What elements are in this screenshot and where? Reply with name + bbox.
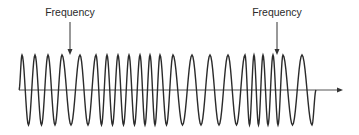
frequency-label-high: Frequency (252, 6, 302, 18)
frequency-label-low: Frequency (45, 6, 95, 18)
label-arrows (68, 22, 280, 55)
fm-wave-diagram (0, 0, 359, 135)
arrow-down-icon (68, 49, 73, 55)
axis-arrowhead-icon (337, 88, 343, 93)
arrow-down-icon (275, 49, 280, 55)
